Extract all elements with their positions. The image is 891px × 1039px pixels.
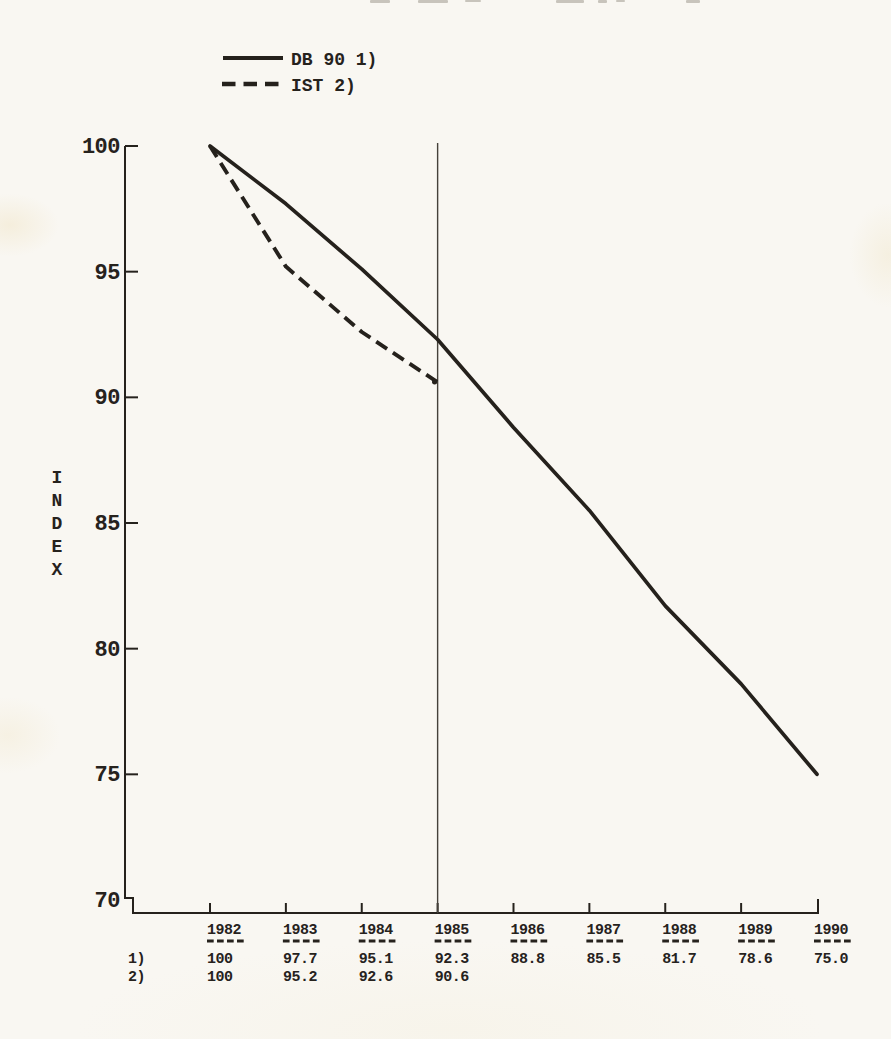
row-label: 1) (128, 951, 145, 968)
series-line-db90 (210, 146, 817, 774)
table-value: 85.5 (586, 951, 621, 968)
ylabel-letter: I (52, 468, 63, 488)
table-value: 97.7 (283, 951, 317, 968)
legend-label-db90: DB 90 1) (291, 50, 377, 70)
table-value: 92.3 (435, 951, 470, 968)
series-end-dot (432, 379, 437, 384)
table-value: 100 (207, 951, 233, 968)
y-tick-label: 90 (95, 386, 120, 411)
year-label: 1990 (814, 922, 849, 939)
table-value: 75.0 (814, 951, 849, 968)
table-value: 81.7 (662, 951, 696, 968)
ylabel-letter: X (52, 560, 63, 580)
table-value: 100 (207, 969, 233, 986)
table-value: 90.6 (435, 969, 470, 986)
legend-label-ist: IST 2) (291, 76, 356, 96)
data-series (210, 146, 817, 774)
y-tick-label: 80 (95, 638, 120, 663)
table-value: 95.2 (283, 969, 318, 986)
ylabel-letter: E (52, 537, 63, 557)
table-value: 92.6 (359, 969, 394, 986)
line-chart: DB 90 1) IST 2) 707580859095100INDEX 198… (0, 0, 891, 1039)
axes: 707580859095100INDEX (52, 135, 818, 914)
table-value: 95.1 (359, 951, 394, 968)
year-label: 1985 (435, 922, 470, 939)
year-label: 1986 (511, 922, 546, 939)
y-tick-label: 70 (95, 889, 120, 914)
y-tick-label: 100 (82, 135, 120, 160)
year-label: 1982 (207, 922, 242, 939)
y-tick-label: 95 (95, 261, 121, 286)
y-tick-label: 85 (95, 512, 121, 537)
year-label: 1987 (586, 922, 620, 939)
year-label: 1984 (359, 922, 394, 939)
chart-legend: DB 90 1) IST 2) (222, 50, 377, 96)
value-table: 1982100100198397.795.2198495.192.6198592… (128, 922, 851, 986)
year-label: 1983 (283, 922, 318, 939)
row-label: 2) (128, 969, 145, 986)
y-tick-label: 75 (95, 763, 121, 788)
series-line-ist (210, 146, 438, 382)
ylabel-letter: D (52, 514, 63, 534)
year-label: 1988 (662, 922, 697, 939)
table-value: 78.6 (738, 951, 773, 968)
ylabel-letter: N (52, 491, 63, 511)
axis-spine (125, 146, 818, 913)
scanned-chart-page: DB 90 1) IST 2) 707580859095100INDEX 198… (0, 0, 891, 1039)
year-label: 1989 (738, 922, 773, 939)
table-value: 88.8 (511, 951, 546, 968)
